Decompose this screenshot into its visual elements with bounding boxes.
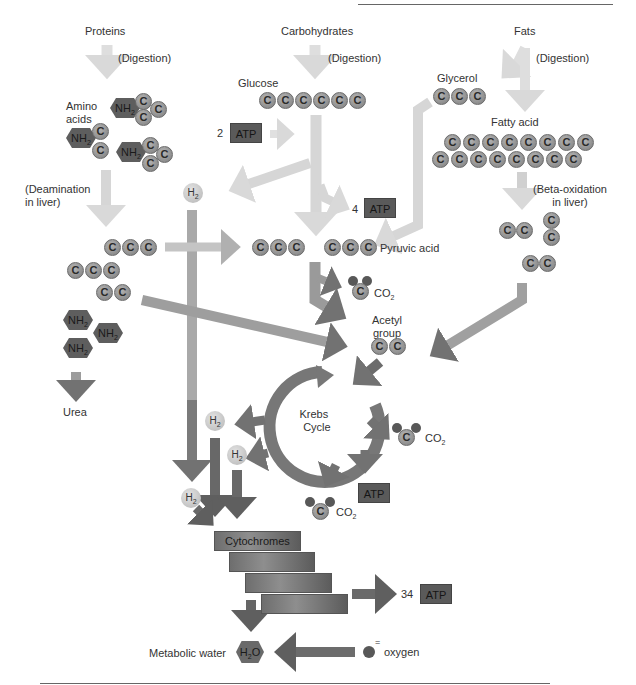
atp-count-electron: 34 xyxy=(401,588,413,600)
carbon-atom: C xyxy=(501,134,518,151)
pyruvate-co2-arrow xyxy=(318,278,333,284)
carbon-atom: C xyxy=(539,134,556,151)
carbon-atom: C xyxy=(522,255,539,272)
label-glucose: Glucose xyxy=(238,77,278,90)
carbon-atom: C xyxy=(543,212,560,229)
label-carbohydrates: Carbohydrates xyxy=(281,25,353,38)
carbon-atom: C xyxy=(352,283,369,300)
carbon-atom: C xyxy=(527,151,544,168)
glucose-h2-branch xyxy=(240,163,310,187)
carbon-atom: C xyxy=(433,88,450,105)
label-urea: Urea xyxy=(63,406,87,419)
h2-molecule: H2 xyxy=(205,411,225,431)
atp-box-input: ATP xyxy=(230,123,262,143)
cytochrome-bar-4 xyxy=(261,594,348,614)
carbon-atom: C xyxy=(135,109,152,126)
carbon-atom: C xyxy=(331,92,348,109)
carbon-atom: C xyxy=(92,142,109,159)
krebs-h2-arrow-2 xyxy=(256,453,268,456)
carbon-atom: C xyxy=(360,239,377,256)
carbon-atom: C xyxy=(543,229,560,246)
glucose-atp-branch xyxy=(320,185,340,205)
carbon-atom: C xyxy=(252,239,269,256)
cytochrome-bar-2 xyxy=(229,552,315,572)
carbon-atom: C xyxy=(142,155,159,172)
label-oxygen-charge: = xyxy=(375,636,380,649)
carbon-atom: C xyxy=(565,151,582,168)
carbon-atom: C xyxy=(451,88,468,105)
carbon-atom: C xyxy=(546,151,563,168)
oxygen-ion xyxy=(363,646,375,658)
carbon-atom: C xyxy=(259,92,276,109)
carbon-atom: C xyxy=(67,262,84,279)
atp-count-output: 4 xyxy=(352,203,358,215)
label-fatty-acid: Fatty acid xyxy=(491,116,539,129)
krebs-h2-arrow-1 xyxy=(245,420,265,423)
carbon-atom: C xyxy=(482,134,499,151)
carbon-atom: C xyxy=(140,239,157,256)
bottom-rule xyxy=(40,683,550,684)
carbon-atom: C xyxy=(103,262,120,279)
carbon-atom: C xyxy=(349,92,366,109)
carbon-atom: C xyxy=(277,92,294,109)
label-pyruvic-acid: Pyruvic acid xyxy=(380,242,439,255)
label-metabolic-water: Metabolic water xyxy=(149,647,226,660)
carbon-atom: C xyxy=(499,222,516,239)
carbon-atom: C xyxy=(432,151,449,168)
pyruvate-to-acetyl-arrow xyxy=(315,262,335,312)
nh2-hexagon: NH2 xyxy=(63,310,93,330)
label-acetyl-group: Acetylgroup xyxy=(372,314,402,340)
carbon-atom: C xyxy=(444,134,461,151)
carbon-atom: C xyxy=(508,151,525,168)
atp-box-krebs: ATP xyxy=(358,483,390,503)
label-proteins: Proteins xyxy=(85,25,125,38)
label-co2: CO2 xyxy=(336,506,356,523)
carbon-atom: C xyxy=(520,134,537,151)
carbon-atom: C xyxy=(469,88,486,105)
carbon-atom: C xyxy=(104,239,121,256)
h2-cytochrome-arrow-3 xyxy=(196,508,206,518)
h2-molecule: H2 xyxy=(227,445,247,465)
carbon-atom: C xyxy=(470,151,487,168)
carbon-atom: C xyxy=(516,222,533,239)
label-krebs-cycle: Krebs Cycle xyxy=(297,408,331,434)
atp-box-electron: ATP xyxy=(420,584,452,604)
cytochrome-bar-1: Cytochromes xyxy=(214,531,301,551)
krebs-co2-arrow-2 xyxy=(330,465,336,477)
h2-molecule: H2 xyxy=(183,183,203,203)
carbon-atom: C xyxy=(85,262,102,279)
carbon-atom: C xyxy=(342,239,359,256)
acetyl-to-cycle-arrow xyxy=(362,362,380,377)
carbon-atom: C xyxy=(96,284,113,301)
carbon-atom: C xyxy=(389,338,406,355)
label-digestion-fats: (Digestion) xyxy=(536,52,589,65)
label-oxygen: oxygen xyxy=(384,646,419,659)
carbon-atom: C xyxy=(324,239,341,256)
fats-to-acetyl-arrow xyxy=(440,283,522,350)
carbon-atom: C xyxy=(313,92,330,109)
amino-to-acetyl-arrow xyxy=(142,300,336,344)
label-digestion-carbs: (Digestion) xyxy=(328,52,381,65)
label-co2: CO2 xyxy=(374,287,394,304)
label-co2: CO2 xyxy=(425,432,445,449)
nh2-hexagon: NH2 xyxy=(93,323,123,343)
glycerol-to-pyruvic-arrow xyxy=(385,102,430,240)
label-amino-acids: Aminoacids xyxy=(66,100,97,126)
label-deamination: (Deaminationin liver) xyxy=(25,183,90,209)
carbon-atom: C xyxy=(270,239,287,256)
carbon-atom: C xyxy=(577,134,594,151)
carbon-atom: C xyxy=(295,92,312,109)
carbon-atom: C xyxy=(398,429,415,446)
carbon-atom: C xyxy=(150,101,167,118)
atp-box-output: ATP xyxy=(364,198,396,218)
h2o-molecule: H2O xyxy=(236,641,264,663)
carbon-atom: C xyxy=(558,134,575,151)
carbon-atom: C xyxy=(463,134,480,151)
carbon-atom: C xyxy=(122,239,139,256)
carbon-atom: C xyxy=(312,503,329,520)
label-glycerol: Glycerol xyxy=(437,72,477,85)
atp-count-input: 2 xyxy=(217,127,223,139)
carbon-atom: C xyxy=(371,338,388,355)
label-fats: Fats xyxy=(514,25,535,38)
carbon-atom: C xyxy=(489,151,506,168)
